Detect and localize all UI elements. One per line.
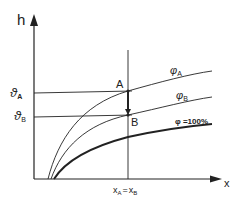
theta-a-label: ϑA: [10, 85, 22, 100]
point-a-marker: [126, 89, 129, 92]
curve-phi-b-label: φB: [176, 89, 188, 102]
psychrometric-diagram: h x ϑA ϑB A B φA φB φ =100% xA=xB: [0, 0, 246, 204]
theta-a-guide: [34, 91, 132, 93]
point-a-label: A: [116, 78, 124, 90]
y-axis-label: h: [17, 11, 25, 28]
x-axis-arrow-icon: [210, 176, 222, 183]
a-to-b-arrow: [125, 91, 131, 115]
curve-phi-a-label: φA: [170, 64, 182, 77]
curve-phi-b: [51, 97, 212, 179]
point-b-label: B: [131, 116, 138, 128]
x-ab-label: xA=xB: [113, 185, 137, 196]
curve-phi-100: [54, 124, 212, 179]
curve-phi-100-label: φ =100%: [175, 117, 208, 126]
theta-b-label: ϑB: [14, 108, 26, 123]
y-axis: [30, 14, 38, 179]
x-axis-label: x: [224, 177, 230, 189]
point-b-marker: [126, 113, 129, 116]
y-axis-arrow-icon: [30, 14, 38, 26]
